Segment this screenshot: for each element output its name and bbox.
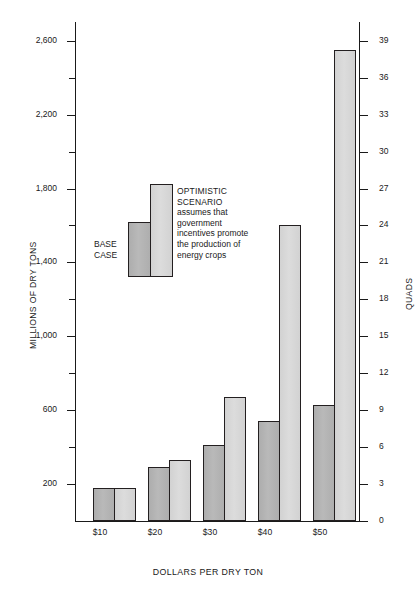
bar-base-case-30[interactable] bbox=[203, 445, 225, 521]
y-axis-right-title: QUADS bbox=[404, 278, 414, 310]
x-axis-title: DOLLARS PER DRY TON bbox=[0, 567, 416, 577]
legend-swatch-optimistic bbox=[150, 184, 173, 277]
y-tick-label-1000: 1,000 bbox=[36, 331, 57, 340]
legend-label-optimistic-line5: incentives promote bbox=[177, 228, 295, 239]
y-tick-label-1800: 1,800 bbox=[36, 184, 57, 193]
bar-chart-figure: MILLIONS OF DRY TONS QUADS 2,600 2,200 1… bbox=[0, 0, 416, 590]
legend-label-optimistic: OPTIMISTIC SCENARIO assumes that governm… bbox=[177, 186, 295, 260]
y-tick-label-2600: 2,600 bbox=[36, 36, 57, 45]
y2-tick-label-3: 3 bbox=[379, 479, 384, 488]
bar-base-case-10[interactable] bbox=[93, 488, 115, 521]
y2-tick-label-24: 24 bbox=[379, 220, 388, 229]
legend-label-optimistic-line7: energy crops bbox=[177, 250, 295, 261]
bar-optimistic-20[interactable] bbox=[169, 460, 191, 521]
legend-label-optimistic-line1: OPTIMISTIC bbox=[177, 186, 295, 197]
y2-tick-label-18: 18 bbox=[379, 294, 388, 303]
x-tick-label-40: $40 bbox=[235, 527, 295, 537]
y2-tick-9: 9 bbox=[360, 410, 368, 411]
y2-tick-36: 36 bbox=[360, 78, 368, 79]
y-tick-label-200: 200 bbox=[43, 479, 57, 488]
y2-tick-label-12: 12 bbox=[379, 368, 388, 377]
y2-tick-label-36: 36 bbox=[379, 73, 388, 82]
y2-tick-33: 33 bbox=[360, 115, 368, 116]
y2-tick-6: 6 bbox=[360, 447, 368, 448]
y2-tick-label-39: 39 bbox=[379, 36, 388, 45]
legend-label-base-case-line2: CASE bbox=[94, 250, 128, 261]
bar-optimistic-50[interactable] bbox=[334, 50, 356, 521]
x-tick-label-30: $30 bbox=[180, 527, 240, 537]
y-tick-label-1400: 1,400 bbox=[36, 257, 57, 266]
y2-tick-label-15: 15 bbox=[379, 331, 388, 340]
x-tick-label-10: $10 bbox=[70, 527, 130, 537]
bar-optimistic-10[interactable] bbox=[114, 488, 136, 521]
y2-tick-30: 30 bbox=[360, 152, 368, 153]
y-tick-1000: 1,000 bbox=[67, 336, 75, 337]
y2-tick-label-0: 0 bbox=[379, 516, 384, 525]
y2-tick-label-21: 21 bbox=[379, 257, 388, 266]
y2-tick-0: 0 bbox=[360, 521, 368, 522]
legend-label-optimistic-line4: government bbox=[177, 218, 295, 229]
y-tick-1800: 1,800 bbox=[67, 189, 75, 190]
legend-label-optimistic-line2: SCENARIO bbox=[177, 197, 295, 208]
y2-tick-label-6: 6 bbox=[379, 442, 384, 451]
bar-base-case-40[interactable] bbox=[258, 421, 280, 521]
y-tick-2400 bbox=[69, 78, 75, 79]
y2-tick-18: 18 bbox=[360, 299, 368, 300]
bar-base-case-20[interactable] bbox=[148, 467, 170, 521]
y2-tick-27: 27 bbox=[360, 189, 368, 190]
plot-area: 2,600 2,200 1,800 1,400 1,000 600 200 39 bbox=[75, 22, 360, 522]
y-axis-left-line bbox=[75, 22, 76, 522]
y-tick-200: 200 bbox=[67, 484, 75, 485]
y-tick-2200: 2,200 bbox=[67, 115, 75, 116]
y-tick-label-2200: 2,200 bbox=[36, 110, 57, 119]
legend-swatch-base-case bbox=[128, 222, 151, 277]
bar-optimistic-30[interactable] bbox=[224, 397, 246, 521]
y-tick-1400: 1,400 bbox=[67, 262, 75, 263]
legend-label-optimistic-line6: the production of bbox=[177, 239, 295, 250]
y-tick-800 bbox=[69, 373, 75, 374]
legend-label-optimistic-line3: assumes that bbox=[177, 207, 295, 218]
y2-tick-label-9: 9 bbox=[379, 405, 384, 414]
y2-tick-label-27: 27 bbox=[379, 184, 388, 193]
bar-base-case-50[interactable] bbox=[313, 405, 335, 521]
y-tick-600: 600 bbox=[67, 410, 75, 411]
y2-tick-21: 21 bbox=[360, 262, 368, 263]
y-tick-1600 bbox=[69, 225, 75, 226]
y-tick-1200 bbox=[69, 299, 75, 300]
legend-label-base-case: BASE CASE bbox=[94, 239, 128, 260]
y-tick-2000 bbox=[69, 152, 75, 153]
x-tick-label-20: $20 bbox=[125, 527, 185, 537]
y-tick-2600: 2,600 bbox=[67, 41, 75, 42]
y2-tick-39: 39 bbox=[360, 41, 368, 42]
bar-optimistic-40[interactable] bbox=[279, 225, 301, 521]
y2-tick-24: 24 bbox=[360, 225, 368, 226]
y2-tick-label-33: 33 bbox=[379, 110, 388, 119]
y2-tick-15: 15 bbox=[360, 336, 368, 337]
y2-tick-12: 12 bbox=[360, 373, 368, 374]
x-tick-label-50: $50 bbox=[290, 527, 350, 537]
y-tick-label-600: 600 bbox=[43, 405, 57, 414]
legend-label-base-case-line1: BASE bbox=[94, 239, 128, 250]
y2-tick-label-30: 30 bbox=[379, 147, 388, 156]
x-axis-baseline bbox=[75, 521, 360, 522]
y-tick-400 bbox=[69, 447, 75, 448]
y2-tick-3: 3 bbox=[360, 484, 368, 485]
